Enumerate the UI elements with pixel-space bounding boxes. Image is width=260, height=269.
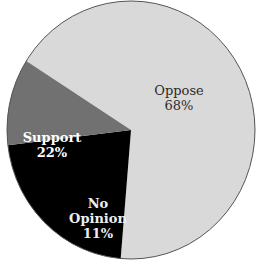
label-no-opinion: No Opinion 11% [69, 196, 127, 241]
label-oppose: Oppose 68% [154, 83, 204, 113]
label-no-opinion-line1: No [69, 196, 127, 211]
label-support: Support 22% [23, 130, 82, 160]
label-no-opinion-pct: 11% [69, 226, 127, 241]
label-support-name: Support [23, 130, 82, 145]
label-no-opinion-line2: Opinion [69, 211, 127, 226]
label-support-pct: 22% [23, 145, 82, 160]
label-oppose-pct: 68% [154, 98, 204, 113]
label-oppose-name: Oppose [154, 83, 204, 98]
